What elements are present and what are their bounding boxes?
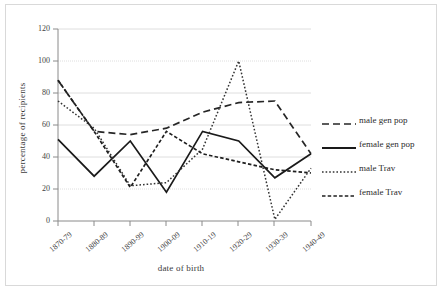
legend-swatch-female-trav xyxy=(322,187,356,197)
y-tick-label-120: 120 xyxy=(24,24,50,33)
legend-item-male-gen-pop[interactable]: male gen pop xyxy=(322,108,438,132)
series-line-female-trav xyxy=(58,80,311,187)
y-tick-label-80: 80 xyxy=(24,88,50,97)
y-tick-label-60: 60 xyxy=(24,120,50,129)
y-tick-label-40: 40 xyxy=(24,152,50,161)
y-tick-label-100: 100 xyxy=(24,56,50,65)
legend-item-female-trav[interactable]: female Trav xyxy=(322,180,438,204)
legend-swatch-male-trav xyxy=(322,163,356,173)
gridlines xyxy=(58,29,311,189)
y-tick-label-0: 0 xyxy=(24,216,50,225)
legend-label-male-trav: male Trav xyxy=(359,163,395,173)
chart-frame: percentage of recipients date of birth 1… xyxy=(5,4,437,286)
legend-label-female-gen-pop: female gen pop xyxy=(359,139,414,149)
legend-label-female-trav: female Trav xyxy=(359,187,402,197)
legend-swatch-male-gen-pop xyxy=(322,115,356,125)
chart-legend: male gen pop female gen pop male Trav xyxy=(322,108,438,204)
legend-label-male-gen-pop: male gen pop xyxy=(359,115,408,125)
y-axis-ticks xyxy=(53,29,58,221)
legend-item-male-trav[interactable]: male Trav xyxy=(322,156,438,180)
series-line-male-trav xyxy=(58,61,311,219)
legend-item-female-gen-pop[interactable]: female gen pop xyxy=(322,132,438,156)
series-line-female-gen-pop xyxy=(58,131,311,192)
y-tick-label-20: 20 xyxy=(24,184,50,193)
data-series-group xyxy=(58,61,311,219)
x-axis-ticks xyxy=(58,221,311,226)
legend-swatch-female-gen-pop xyxy=(322,139,356,149)
